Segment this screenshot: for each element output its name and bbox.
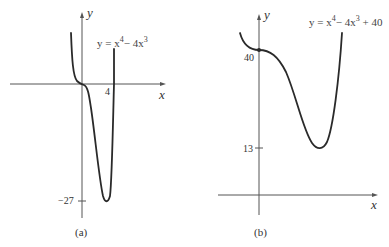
panel-a-x-axis-label: x xyxy=(159,88,165,101)
panel-b-equation: y = x4− 4x3 + 40 xyxy=(309,17,382,28)
panel-b-y-arrow-icon xyxy=(257,14,261,20)
panel-b-y-tick-label-13: 13 xyxy=(243,144,253,154)
panel-b-y-axis-label: y xyxy=(264,8,270,21)
panel-a-x-tick-label: 4 xyxy=(105,87,110,97)
panel-a-eq-prefix: y = x xyxy=(97,37,120,49)
panel-b-x-axis-label: x xyxy=(371,198,377,211)
panel-b-y-intercept-point xyxy=(257,48,261,52)
panel-a-eq-exp2: 3 xyxy=(144,35,148,44)
panel-a-caption: (a) xyxy=(75,227,87,238)
panel-b-axes xyxy=(218,14,378,215)
panel-a-y-tick-label: −27 xyxy=(58,196,74,206)
panel-a-x-arrow-icon xyxy=(160,82,166,86)
figure: y x y = x4− 4x3 4 −27 (a) y x y = x4− 4x… xyxy=(0,0,389,247)
panel-b-eq-mid: − 4x xyxy=(336,16,356,28)
graphs-canvas xyxy=(0,0,389,247)
panel-a-y-axis-label: y xyxy=(87,6,93,19)
panel-b-eq-prefix: y = x xyxy=(309,16,332,28)
panel-a-y-arrow-icon xyxy=(80,12,84,18)
panel-a-eq-mid: − 4x xyxy=(124,37,144,49)
panel-a-equation: y = x4− 4x3 xyxy=(97,38,148,49)
panel-b-y-tick-label-40: 40 xyxy=(244,53,254,63)
panel-b-caption: (b) xyxy=(254,227,267,238)
panel-b-curve xyxy=(240,33,342,148)
panel-a-curve xyxy=(71,33,114,201)
panel-b-eq-suffix: + 40 xyxy=(360,16,383,28)
